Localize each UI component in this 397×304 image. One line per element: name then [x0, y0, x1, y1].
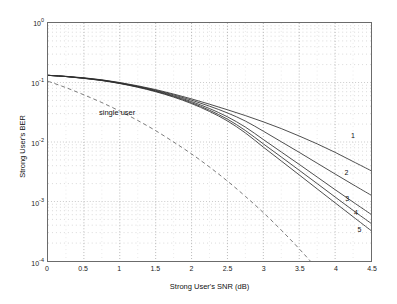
series-single user	[48, 81, 341, 261]
x-tick-9: 4.5	[367, 265, 377, 272]
data-curves	[48, 23, 371, 261]
x-tick-7: 3.5	[295, 265, 305, 272]
x-tick-5: 2.5	[223, 265, 233, 272]
series-curve-4	[48, 75, 371, 223]
curve-label-5: 5	[358, 226, 362, 233]
x-tick-2: 1	[117, 265, 121, 272]
curve-label-3: 3	[345, 195, 349, 202]
series-curve-5	[48, 75, 371, 230]
x-tick-4: 2	[189, 265, 193, 272]
x-tick-8: 4	[334, 265, 338, 272]
plot-area	[47, 22, 372, 262]
figure-canvas: 00.511.522.533.544.5 10010-110-210-310-4…	[0, 0, 397, 304]
y-tick-1: 10-1	[22, 77, 44, 86]
annotation-0: single user	[99, 108, 135, 117]
curve-label-1: 1	[351, 132, 355, 139]
x-tick-3: 1.5	[150, 265, 160, 272]
curve-label-2: 2	[345, 169, 349, 176]
y-axis-label: Strong User's BER	[18, 87, 27, 207]
x-axis-label: Strong User's SNR (dB)	[47, 282, 372, 291]
y-tick-4: 10-4	[22, 257, 44, 266]
series-curve-2	[48, 75, 371, 195]
y-tick-0: 100	[22, 17, 44, 26]
curve-label-4: 4	[354, 209, 358, 216]
series-curve-1	[48, 75, 371, 170]
x-tick-1: 0.5	[78, 265, 88, 272]
x-tick-6: 3	[262, 265, 266, 272]
x-tick-0: 0	[45, 265, 49, 272]
